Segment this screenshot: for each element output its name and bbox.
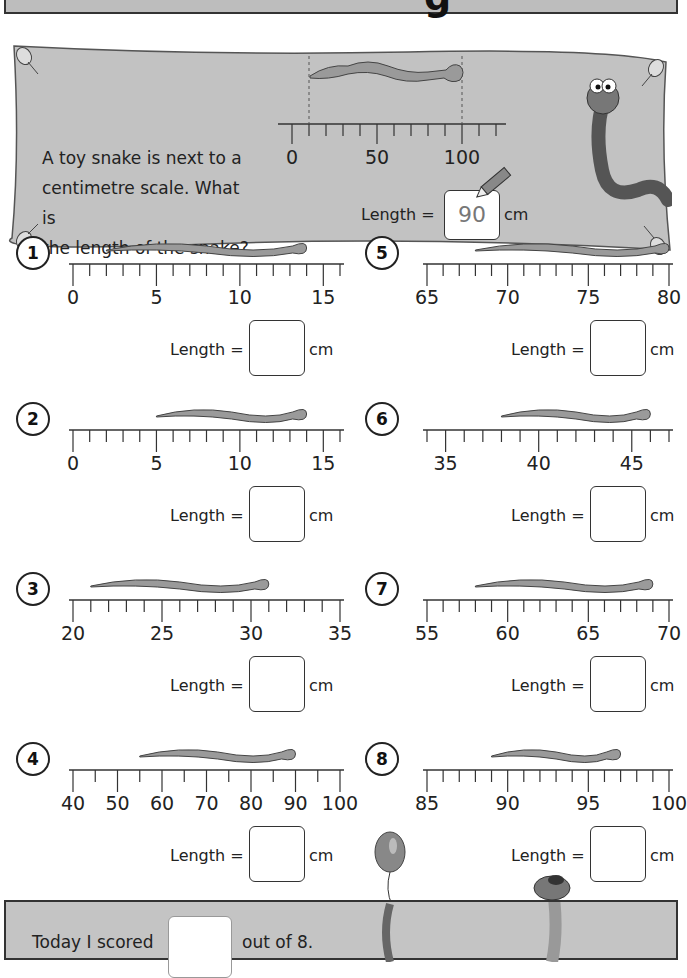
ruler-label: 100 — [651, 792, 687, 814]
ruler-label: 95 — [576, 792, 600, 814]
snake — [492, 749, 621, 762]
length-label: Length = — [511, 846, 585, 865]
ruler-label: 90 — [496, 792, 520, 814]
answer-box[interactable] — [590, 826, 646, 882]
unit-label: cm — [650, 846, 674, 865]
ruler-label: 85 — [415, 792, 439, 814]
snake-mascot-icon — [6, 902, 680, 962]
score-bar: Today I scored out of 8. — [4, 900, 678, 960]
